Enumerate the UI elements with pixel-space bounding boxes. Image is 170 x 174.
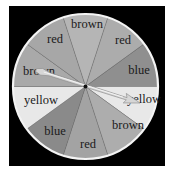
segment-label: red xyxy=(115,33,132,47)
segment-label: blue xyxy=(128,63,150,77)
segment-label: red xyxy=(80,137,97,151)
segment-label: red xyxy=(47,32,64,46)
wheel-hub-icon xyxy=(84,85,88,89)
segment-label: brown xyxy=(71,17,104,31)
spinner-wheel[interactable]: brownredblueyellowbrownredblueyellowbrow… xyxy=(0,0,170,174)
segment-label: yellow xyxy=(24,93,58,107)
segment-label: blue xyxy=(44,124,66,138)
segment-label: brown xyxy=(112,118,145,132)
